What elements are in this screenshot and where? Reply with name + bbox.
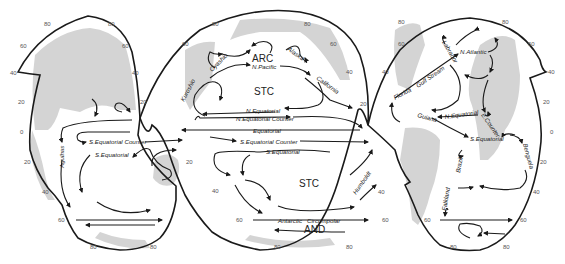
arrow-s-atl-gyre xyxy=(459,223,482,238)
arrow-brazil xyxy=(459,150,463,156)
tick-40: 40 xyxy=(382,69,389,75)
label-labrador: Labrador xyxy=(441,39,460,65)
tick-80: 80 xyxy=(150,244,157,250)
tick-40: 40 xyxy=(548,69,555,75)
label-alaska: Alaska xyxy=(286,45,307,62)
tick-20: 20 xyxy=(360,101,367,107)
land-antarctica-west xyxy=(95,232,150,248)
arrow-n-eq-counter-2 xyxy=(293,116,362,128)
arrow-n-pacific-2 xyxy=(280,66,310,75)
tick-80: 80 xyxy=(274,244,281,250)
tick-80: 80 xyxy=(108,21,115,27)
label-stc-north: STC xyxy=(254,86,274,97)
label-s-equatorial-counter-ind: S.Equatorial Counter xyxy=(89,138,147,145)
label-stc-south: STC xyxy=(299,178,319,189)
arrow-s-eq-counter-pac-2 xyxy=(300,141,368,142)
tick-80: 80 xyxy=(502,19,509,25)
label-brazil: Brazil xyxy=(454,156,464,173)
arrow-brazil-2 xyxy=(458,187,473,188)
arrow-indian-6 xyxy=(80,155,90,192)
label-guiana: Guiana xyxy=(417,111,439,123)
tick-0: 0 xyxy=(20,129,24,135)
label-circumpolar: Circumpolar xyxy=(307,217,341,224)
tick-60: 60 xyxy=(20,43,27,49)
label-benguela: Benguela xyxy=(522,142,536,170)
arrow-pac-return xyxy=(285,82,323,109)
tick-0: 0 xyxy=(550,129,554,135)
arrow-humboldt-2 xyxy=(350,150,372,175)
tick-60: 60 xyxy=(424,217,431,223)
tick-80: 80 xyxy=(346,244,353,250)
label-n-equatorial-pac: N.Equatorial xyxy=(246,107,281,114)
arrow-indian-9 xyxy=(97,202,150,213)
tick-20: 20 xyxy=(18,99,25,105)
tick-40: 40 xyxy=(533,189,540,195)
tick-20: 20 xyxy=(186,159,193,165)
tick-60: 60 xyxy=(520,217,527,223)
tick-60: 60 xyxy=(528,41,535,47)
tick-40: 40 xyxy=(132,70,139,76)
tick-40: 40 xyxy=(346,69,353,75)
arrow-arc-2 xyxy=(252,42,272,54)
tick-80: 80 xyxy=(90,244,97,250)
label-n-atlantic: N.Atlantic xyxy=(460,48,487,55)
arrow-s-atl-return xyxy=(484,233,505,234)
tick-80: 80 xyxy=(304,21,311,27)
label-falkland: Falkland xyxy=(440,186,451,211)
arrow-florida xyxy=(392,103,400,122)
tick-40: 40 xyxy=(10,70,17,76)
label-n-equatorial-atl: N.Equatorial xyxy=(444,108,479,120)
label-n-pacific: N.Pacific xyxy=(252,63,277,70)
tick-80: 80 xyxy=(44,21,51,27)
arrow-s-pac-south xyxy=(278,206,354,211)
tick-80: 80 xyxy=(212,21,219,27)
tick-40: 40 xyxy=(42,189,49,195)
label-equatorial: Equatorial xyxy=(253,127,281,134)
arrow-s-pac-inner xyxy=(242,155,250,175)
tick-60: 60 xyxy=(398,41,405,47)
tick-20: 20 xyxy=(24,159,31,165)
tick-60: 60 xyxy=(122,43,129,49)
label-agulhas: Agulhas xyxy=(58,146,65,169)
tick-80: 80 xyxy=(503,244,510,250)
arrow-benguela xyxy=(480,170,527,190)
label-s-equatorial-pac: S.Equatorial xyxy=(266,148,300,155)
tick-60: 60 xyxy=(236,217,243,223)
arrow-s-eq-counter-pac xyxy=(210,137,236,141)
label-gulf-stream: Gulf Stream xyxy=(415,64,446,89)
tick-20: 20 xyxy=(540,159,547,165)
arrow-s-eq-atl xyxy=(510,135,522,143)
tick-60: 60 xyxy=(382,217,389,223)
tick-60: 60 xyxy=(182,41,189,47)
ocean-currents-map: ARC STC STC AND Kuroshio Oyashio Alaska … xyxy=(0,0,565,264)
arrow-n-atlantic-1 xyxy=(456,29,479,45)
tick-40: 40 xyxy=(378,189,385,195)
arrow-s-pac-inner-2 xyxy=(245,180,270,200)
tick-40: 40 xyxy=(212,188,219,194)
tick-80: 80 xyxy=(450,244,457,250)
label-and: AND xyxy=(304,224,325,235)
tick-60: 60 xyxy=(330,41,337,47)
land-antarctica-pac xyxy=(245,235,335,248)
tick-20: 20 xyxy=(543,99,550,105)
land-eurasia xyxy=(33,28,137,130)
label-florida: Florida xyxy=(392,86,412,101)
tick-20: 20 xyxy=(140,99,147,105)
label-s-equatorial-counter-pac: S.Equatorial Counter xyxy=(240,138,298,145)
label-s-equatorial-ind: S.Equatorial xyxy=(95,151,129,158)
tick-80: 80 xyxy=(398,19,405,25)
label-s-equatorial-atl: S.Equatorial xyxy=(470,135,504,142)
arrow-s-pac-inner-3 xyxy=(235,185,262,213)
arrow-guiana xyxy=(432,118,468,137)
label-antarctic: Antarctic xyxy=(277,217,303,224)
label-n-equatorial-counter: N.Equatorial Counter xyxy=(236,115,295,122)
tick-60: 60 xyxy=(58,217,65,223)
